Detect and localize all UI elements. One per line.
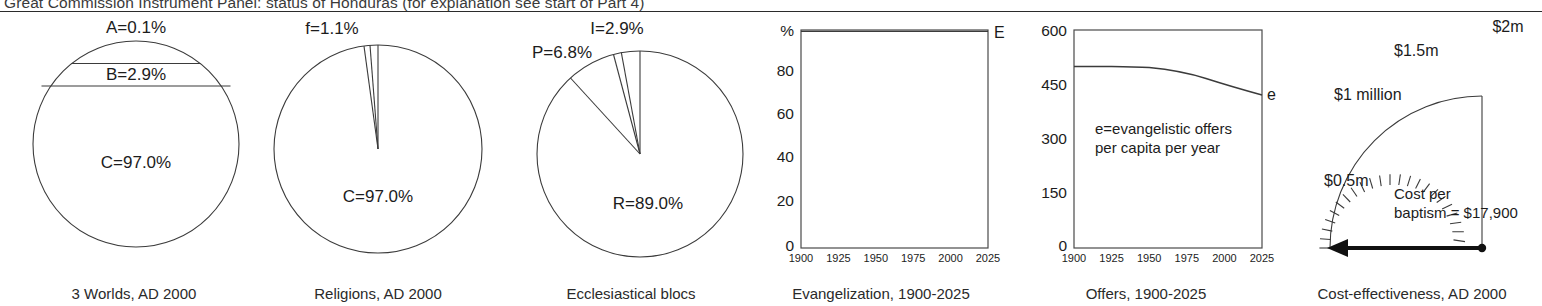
label-r: R=89.0% [613,194,683,213]
label-c: C=97.0% [343,187,413,206]
panel-caption-evangelization: Evangelization, 1900-2025 [756,285,1006,302]
y-tick-450: 450 [1041,76,1067,93]
pie-labels-religions: f=1.1% C=97.0% [252,14,504,282]
y-tick-20: 20 [777,192,795,209]
offers-note-line1: e=evangelistic offers [1095,120,1232,137]
label-f: f=1.1% [305,19,358,38]
pie-labels-3-worlds: A=0.1% B=2.9% C=97.0% [0,14,268,282]
y-tick-150: 150 [1041,184,1067,201]
label-a: A=0.1% [106,18,166,37]
y-tick-300: 300 [1041,130,1067,147]
y-tick-40: 40 [777,148,795,165]
x-tick-1925: 1925 [826,252,850,264]
panel-caption-blocs: Ecclesiastical blocs [500,285,762,302]
x-tick-1975: 1975 [901,252,925,264]
title-divider [0,11,1542,12]
gauge-label-2m: $2m [1492,18,1523,35]
x-tick-1950: 1950 [864,252,888,264]
x-tick-1900: 1900 [1062,252,1086,264]
series-line-e [1074,67,1262,96]
label-p: P=6.8% [532,43,592,62]
x-tick-2000: 2000 [938,252,962,264]
label-b: B=2.9% [106,65,166,84]
panel-offers: 600 450 300 150 0 e e=evangelistic offer… [1006,14,1286,306]
offers-note-line2: per capita per year [1095,139,1220,156]
panel-caption-religions: Religions, AD 2000 [252,285,504,302]
gauge-label-1-5m: $1.5m [1394,42,1438,59]
series-label-e: e [1267,86,1276,103]
gauge-pivot [1478,244,1486,252]
label-i: I=2.9% [590,19,643,38]
cost-note-line2: baptism = $17,900 [1394,204,1518,221]
pie-labels-blocs: I=2.9% P=6.8% R=89.0% [500,14,762,282]
instrument-panel: Great Commission Instrument Panel: statu… [0,0,1542,306]
y-axis-unit: % [780,22,794,39]
panel-caption-cost-effectiveness: Cost-effectiveness, AD 2000 [1282,285,1542,302]
x-tick-2000: 2000 [1212,252,1236,264]
plot-frame [801,30,988,248]
panel-religions: f=1.1% C=97.0% Religions, AD 2000 [252,14,504,306]
gauge-label-1-million: $1 million [1334,86,1402,103]
label-c: C=97.0% [101,153,171,172]
gauge-label-0-5m: $0.5m [1324,172,1368,189]
series-label-E: E [994,24,1005,41]
panel-cost-effectiveness: $0.5m $1 million $1.5m $2m Cost per bapt… [1282,14,1542,306]
x-tick-2025: 2025 [976,252,1000,264]
y-tick-60: 60 [777,105,795,122]
y-tick-80: 80 [777,62,795,79]
x-tick-1950: 1950 [1137,252,1161,264]
panel-caption-offers: Offers, 1900-2025 [1006,285,1286,302]
gauge-cost-effectiveness: $0.5m $1 million $1.5m $2m Cost per bapt… [1282,14,1542,282]
line-chart-offers: 600 450 300 150 0 e e=evangelistic offer… [1006,14,1286,282]
x-tick-1975: 1975 [1175,252,1199,264]
y-tick-600: 600 [1041,22,1067,39]
x-tick-1925: 1925 [1099,252,1123,264]
panel-caption-3-worlds: 3 Worlds, AD 2000 [0,285,268,302]
panel-3-worlds: A=0.1% B=2.9% C=97.0% 3 Worlds, AD 2000 [0,14,268,306]
line-chart-evangelization: % 80 60 40 20 0 E 1900 1925 1950 1975 20… [756,14,1006,282]
panel-evangelization: % 80 60 40 20 0 E 1900 1925 1950 1975 20… [756,14,1006,306]
cost-note-line1: Cost per [1394,185,1451,202]
panel-ecclesiastical-blocs: I=2.9% P=6.8% R=89.0% Ecclesiastical blo… [500,14,762,306]
x-tick-2025: 2025 [1250,252,1274,264]
x-tick-1900: 1900 [789,252,813,264]
